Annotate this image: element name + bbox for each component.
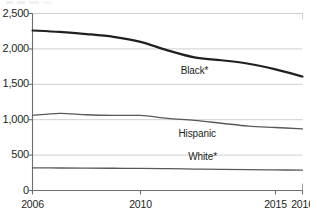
x-tick-label-2016: 2016 bbox=[291, 199, 310, 210]
y-tick-label-1500: 1,500 bbox=[2, 78, 29, 89]
y-tick-label-500: 500 bbox=[11, 149, 29, 160]
white-series-label: White* bbox=[188, 152, 217, 162]
black-series-label: Black* bbox=[181, 66, 209, 76]
line-chart: 2,5002,0001,5001,0005000 200620102015201… bbox=[0, 0, 310, 224]
series-line-black bbox=[33, 30, 303, 76]
series-line-hispanic bbox=[33, 113, 303, 129]
series-lines bbox=[33, 30, 303, 170]
y-tick-label-0: 0 bbox=[23, 185, 29, 196]
y-tick-label-2500: 2,500 bbox=[2, 8, 29, 19]
series-line-white bbox=[33, 168, 303, 170]
y-axis-tick-labels: 2,5002,0001,5001,0005000 bbox=[0, 0, 29, 224]
y-tick-label-1000: 1,000 bbox=[2, 114, 29, 125]
axis-lines bbox=[33, 14, 303, 191]
x-tick-label-2010: 2010 bbox=[129, 199, 152, 210]
x-tick-label-2015: 2015 bbox=[264, 199, 287, 210]
y-tick-label-2000: 2,000 bbox=[2, 43, 29, 54]
x-tick-label-2006: 2006 bbox=[21, 199, 44, 210]
plot-area bbox=[0, 0, 310, 224]
tick-marks bbox=[29, 14, 303, 195]
gridlines bbox=[33, 14, 303, 156]
hispanic-series-label: Hispanic bbox=[178, 129, 216, 139]
